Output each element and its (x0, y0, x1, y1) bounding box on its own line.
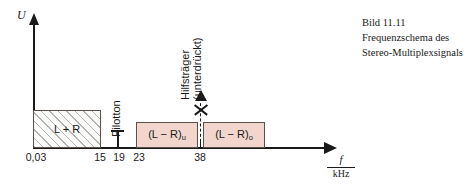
frequency-spectrum-diagram: U f kHz 0,03 15 19 23 38 L + R (L − R)u … (0, 0, 360, 189)
tick-label: 23 (133, 151, 145, 163)
figure-title-line-1: Frequenzschema des (362, 31, 470, 46)
y-axis-arrowhead (29, 13, 39, 25)
spectrum-block-label: L + R (34, 123, 100, 135)
figure-title-line-2: Stereo-Multiplexsignals (362, 46, 470, 61)
tick-label: 38 (194, 151, 206, 163)
sideband-subscript: u (182, 133, 186, 142)
x-axis-unit: kHz (326, 168, 356, 180)
y-axis-label: U (17, 8, 26, 23)
spectrum-block-mono-sum: L + R (33, 110, 101, 148)
sideband-expression: (L − R) (215, 128, 249, 140)
x-axis-label: f kHz (326, 154, 356, 179)
tick-label: 15 (94, 151, 106, 163)
x-axis-quantity: f (326, 154, 356, 167)
spectrum-block-upper-sideband: (L − R)o (203, 122, 265, 148)
x-axis-arrowhead (324, 142, 337, 154)
carrier-label-line2: (unterdrückt) (191, 38, 203, 100)
sideband-expression: (L − R) (148, 128, 182, 140)
tick-label: 0,03 (26, 151, 46, 163)
tick-label: 19 (113, 151, 125, 163)
figure-caption: Bild 11.11 Frequenzschema des Stereo-Mul… (362, 16, 470, 61)
figure-number: Bild 11.11 (362, 16, 470, 31)
suppression-cross-icon (193, 103, 208, 116)
spectrum-block-label: (L − R)o (204, 128, 264, 142)
pilot-tone-label: Pilotton (110, 100, 122, 137)
carrier-label-line1: Hilfsträger (179, 50, 191, 100)
spectrum-block-lower-sideband: (L − R)u (136, 122, 198, 148)
spectrum-block-label: (L − R)u (137, 128, 197, 142)
sideband-subscript: o (249, 133, 253, 142)
